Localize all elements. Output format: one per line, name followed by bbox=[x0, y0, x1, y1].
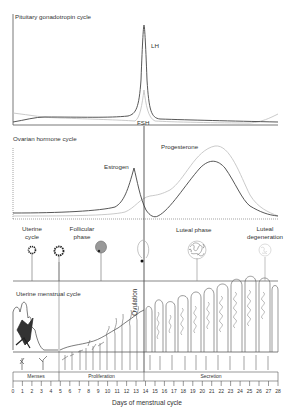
tick-label: 24 bbox=[236, 389, 244, 394]
lh-curve bbox=[13, 25, 278, 122]
primordial-follicle-icon bbox=[29, 247, 36, 254]
tick-label: 18 bbox=[179, 389, 187, 394]
uterine-cycle-label: Uterine cycle bbox=[12, 226, 52, 240]
luteal-degeneration-label: Luteal degeneration bbox=[240, 226, 290, 240]
tick-label: 12 bbox=[123, 389, 131, 394]
ovulation-label: Ovulation bbox=[132, 289, 138, 316]
tick-label: 0 bbox=[9, 389, 17, 394]
tick-label: 8 bbox=[85, 389, 93, 394]
tick-label: 14 bbox=[142, 389, 150, 394]
tick-label: 11 bbox=[113, 389, 121, 394]
x-axis-ticks bbox=[13, 381, 278, 388]
tick-label: 7 bbox=[75, 389, 83, 394]
uterine-menstrual-title: Uterine menstrual cycle bbox=[16, 291, 81, 297]
tick-label: 5 bbox=[56, 389, 64, 394]
phase-menses: Menses bbox=[13, 374, 59, 379]
primary-follicle-icon bbox=[55, 247, 64, 256]
corpus-albicans-icon bbox=[259, 244, 271, 256]
x-axis-tick-labels: 0 1 2 3 4 5 6 7 8 9 10 11 12 13 14 15 16… bbox=[0, 389, 294, 397]
corpus-luteum-icon bbox=[188, 241, 206, 259]
tick-label: 9 bbox=[94, 389, 102, 394]
tick-label: 27 bbox=[265, 389, 273, 394]
ruptured-follicle-icon bbox=[138, 240, 149, 258]
tick-label: 21 bbox=[208, 389, 216, 394]
tick-label: 26 bbox=[255, 389, 263, 394]
tick-label: 1 bbox=[18, 389, 26, 394]
tick-label: 19 bbox=[189, 389, 197, 394]
tick-label: 25 bbox=[246, 389, 254, 394]
menstrual-cycle-diagram bbox=[0, 0, 294, 416]
fsh-label: FSH bbox=[137, 120, 149, 126]
graafian-follicle-icon bbox=[96, 241, 107, 253]
estrogen-label: Estrogen bbox=[104, 164, 129, 170]
tick-label: 15 bbox=[151, 389, 159, 394]
lh-label: LH bbox=[151, 43, 159, 49]
tick-label: 28 bbox=[274, 389, 282, 394]
ovarian-hormone-title: Ovarian hormone cycle bbox=[13, 136, 77, 142]
progesterone-label: Progesterone bbox=[161, 144, 198, 150]
tick-label: 10 bbox=[104, 389, 112, 394]
tick-label: 6 bbox=[66, 389, 74, 394]
pituitary-title: Pituitary gonadotropin cycle bbox=[15, 14, 91, 20]
tick-label: 16 bbox=[160, 389, 168, 394]
tick-label: 13 bbox=[132, 389, 140, 394]
x-axis-label: Days of menstrual cycle bbox=[60, 400, 234, 407]
pituitary-panel bbox=[13, 14, 278, 125]
tick-label: 17 bbox=[170, 389, 178, 394]
tick-label: 20 bbox=[198, 389, 206, 394]
tick-label: 4 bbox=[47, 389, 55, 394]
phase-proliferation: Proliferation bbox=[59, 374, 144, 379]
tick-label: 3 bbox=[37, 389, 45, 394]
luteal-phase-label: Luteal phase bbox=[176, 227, 211, 233]
tick-label: 23 bbox=[227, 389, 235, 394]
phase-secretion: Secretion bbox=[144, 374, 278, 379]
tick-label: 2 bbox=[28, 389, 36, 394]
follicular-phase-label: Follicular phase bbox=[60, 226, 104, 240]
tick-label: 22 bbox=[217, 389, 225, 394]
progesterone-curve bbox=[13, 146, 278, 216]
ovarian-stages bbox=[13, 240, 278, 281]
